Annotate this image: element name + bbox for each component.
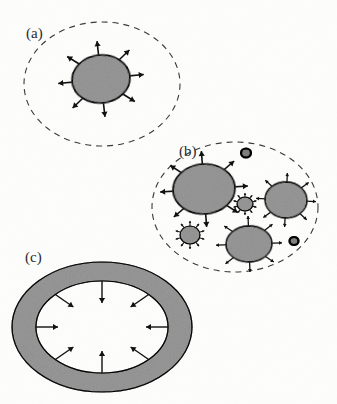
body-dot-right-fill: [290, 237, 299, 245]
diagram-svg: (a) (b) (c): [0, 0, 337, 404]
body-small-middle-fill: [237, 197, 253, 211]
body-small-left-fill: [180, 226, 200, 244]
body-dot-top-fill: [241, 149, 251, 158]
body-dot-top: [241, 149, 251, 158]
panel-a-label: (a): [26, 25, 43, 42]
figure-canvas: (a) (b) (c): [0, 0, 337, 404]
panel-c-label: (c): [25, 249, 42, 266]
body-dot-right: [290, 237, 299, 245]
panel-b-label: (b): [179, 143, 197, 160]
